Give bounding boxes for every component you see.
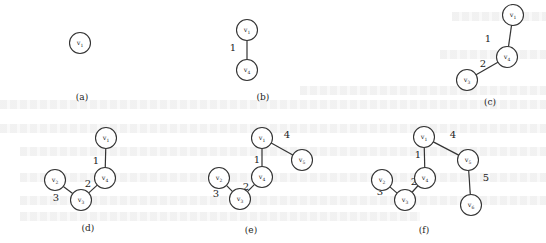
edge-v4-v3	[412, 186, 418, 192]
node-v1: v1	[96, 128, 117, 149]
node-v5: v5	[458, 150, 479, 171]
edge-weight-label: 1	[254, 154, 260, 165]
node-v2: v2	[209, 168, 230, 189]
node-v3: v3	[230, 189, 251, 210]
edge-weight-label: 1	[93, 155, 99, 166]
node-v5: v5	[292, 150, 313, 171]
node-v3: v3	[395, 190, 416, 211]
panel-caption: (f)	[419, 225, 429, 235]
graph-canvas: v1(a)1v1v4(b)12v1v4v3(c)123v1v4v2v3(d)14…	[0, 0, 546, 243]
edge-v2-v3	[226, 185, 232, 191]
node-v4: v4	[237, 60, 258, 81]
panel-a: v1(a)	[70, 33, 91, 103]
panel-d: 123v1v4v2v3(d)	[45, 128, 117, 234]
node-v4: v4	[497, 47, 518, 68]
panel-caption: (c)	[484, 97, 496, 107]
panel-f: 14235v1v4v5v6v2v3(f)	[372, 127, 490, 236]
node-v1: v1	[414, 127, 435, 148]
mst-construction-figure: v1(a)1v1v4(b)12v1v4v3(c)123v1v4v2v3(d)14…	[0, 0, 546, 243]
edge-v1-v5	[271, 143, 293, 155]
edge-weight-label: 3	[53, 192, 59, 203]
edge-weight-label: 5	[483, 172, 489, 183]
node-v4: v4	[415, 168, 436, 189]
panel-c: 12v1v4v3(c)	[457, 5, 524, 108]
edge-weight-label: 1	[485, 33, 491, 44]
node-v2: v2	[372, 170, 393, 191]
edge-weight-label: 2	[480, 58, 486, 69]
node-v1: v1	[70, 33, 91, 54]
edge-v2-v3	[390, 187, 397, 193]
panel-caption: (d)	[82, 223, 95, 233]
edge-weight-label: 3	[213, 188, 219, 199]
edge-v1-v5	[433, 142, 458, 155]
edge-weight-label: 4	[450, 129, 456, 140]
edge-weight-label: 1	[415, 149, 421, 160]
node-v4: v4	[95, 168, 116, 189]
panel-caption: (a)	[76, 92, 88, 102]
node-v2: v1	[503, 5, 524, 26]
node-v4: v4	[252, 167, 273, 188]
panel-caption: (e)	[245, 225, 257, 235]
edge-weight-label: 1	[230, 42, 236, 53]
panel-e: 1423v1v4v5v2v3(e)	[209, 128, 313, 236]
edge-v2-v4	[508, 25, 511, 46]
panel-caption: (b)	[257, 92, 270, 102]
node-v1: v1	[237, 20, 258, 41]
edge-weight-label: 4	[284, 129, 290, 140]
node-v3: v3	[71, 190, 92, 211]
panel-b: 1v1v4(b)	[230, 20, 270, 103]
node-v2: v2	[45, 170, 66, 191]
node-v3: v3	[457, 70, 478, 91]
edge-v5-v6	[469, 170, 471, 194]
edge-v2-v3	[63, 186, 72, 193]
node-v1: v1	[252, 128, 273, 149]
edge-weight-label: 2	[85, 178, 91, 189]
node-v6: v6	[461, 195, 482, 216]
